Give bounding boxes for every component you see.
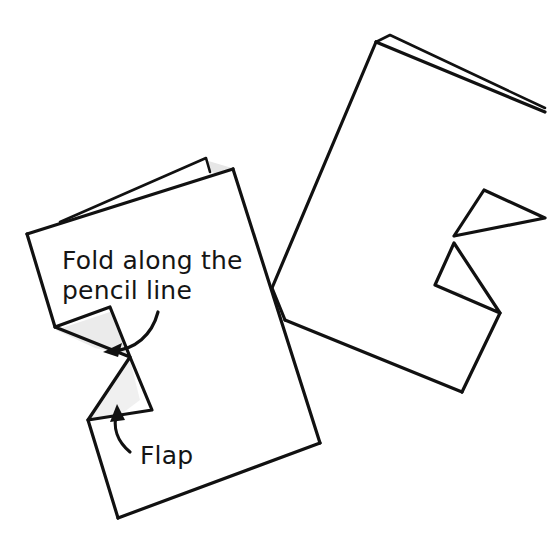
fold-instruction-label: Fold along the pencil line [62,246,243,306]
fold-instruction-line2: pencil line [62,276,243,306]
right-paper-sheet [272,35,545,392]
fold-instruction-line1: Fold along the [62,246,243,276]
flap-label: Flap [140,441,193,471]
